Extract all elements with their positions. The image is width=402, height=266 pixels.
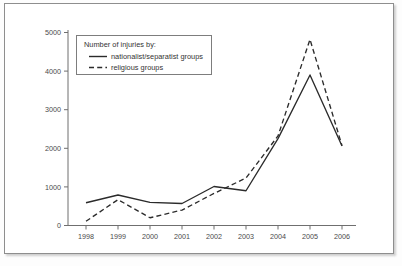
x-tick-label: 2006	[334, 232, 350, 241]
x-tick-label: 1999	[110, 232, 126, 241]
y-tick-label: 3000	[45, 105, 61, 114]
x-tick-label: 2004	[270, 232, 286, 241]
x-tick-label: 2002	[206, 232, 222, 241]
x-tick-label: 2000	[142, 232, 158, 241]
legend-label-nationalist-separatist-groups: nationalist/separatist groups	[111, 52, 203, 61]
x-tick-label: 2005	[302, 232, 318, 241]
x-tick-label: 2001	[174, 232, 190, 241]
line-chart: 0 1000 2000 3000 4000 5000 1998 1999 200…	[0, 0, 402, 266]
x-tick-label: 1998	[78, 232, 94, 241]
series-line-nationalist-separatist-groups	[86, 75, 342, 204]
legend-title: Number of injuries by:	[84, 40, 156, 49]
chart-legend: Number of injuries by: nationalist/separ…	[77, 36, 212, 75]
y-tick-label: 1000	[45, 183, 61, 192]
x-axis-ticks: 1998 1999 2000 2001 2002 2003 2004 2005 …	[78, 226, 350, 242]
chart-screenshot: 0 1000 2000 3000 4000 5000 1998 1999 200…	[0, 0, 402, 266]
y-axis-ticks: 0 1000 2000 3000 4000 5000	[45, 28, 68, 230]
y-tick-label: 0	[57, 221, 61, 230]
x-tick-label: 2003	[238, 232, 254, 241]
y-tick-label: 5000	[45, 28, 61, 37]
legend-label-religious-groups: religious groups	[111, 63, 163, 72]
y-tick-label: 2000	[45, 144, 61, 153]
y-tick-label: 4000	[45, 67, 61, 76]
